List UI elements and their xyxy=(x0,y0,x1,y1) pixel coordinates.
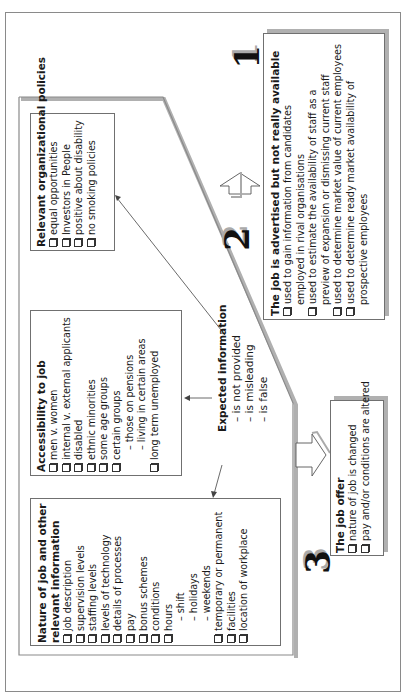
nature-title-1: Nature of job and other xyxy=(36,504,49,643)
expected-title: Expected information xyxy=(216,305,230,433)
nature-item: supervision levels xyxy=(75,504,88,643)
checkbox-icon xyxy=(151,635,159,643)
checkbox-icon xyxy=(361,545,369,553)
stage1-content: The job is advertised but not really ava… xyxy=(269,44,370,316)
checkbox-icon xyxy=(139,635,147,643)
checkbox-icon xyxy=(239,635,247,643)
nature-item: details of processes xyxy=(112,504,125,643)
checkbox-icon xyxy=(346,308,354,316)
expected-info: Expected information – is not provided –… xyxy=(216,305,270,433)
checkbox-icon xyxy=(88,635,96,643)
checkbox-icon xyxy=(76,635,84,643)
access-item: certain groups xyxy=(111,317,124,472)
arrow-to-nature xyxy=(214,465,222,494)
nature-item: pay xyxy=(125,504,138,643)
checkbox-icon xyxy=(308,308,316,316)
checkbox-icon xyxy=(283,308,291,316)
nature-item: job description xyxy=(62,504,75,643)
stage1-item: used to determine ready market availabil… xyxy=(345,44,358,316)
expected-line: – is not provided xyxy=(230,305,244,433)
access-item: some age groups xyxy=(98,317,111,472)
checkbox-icon xyxy=(333,308,341,316)
nature-item: location of workplace xyxy=(238,504,251,643)
block-arrow-up-icon xyxy=(220,172,260,197)
checkbox-icon xyxy=(49,239,57,247)
stage3-content: The job offer nature of job is changed p… xyxy=(334,381,372,553)
policy-item: positive about disability xyxy=(73,57,86,247)
checkbox-icon xyxy=(113,635,121,643)
policy-item: no smoking policies xyxy=(86,57,99,247)
nature-item: staffing levels xyxy=(87,504,100,643)
stage3-item: nature of job is changed xyxy=(347,381,360,553)
checkbox-icon xyxy=(62,239,70,247)
expected-line: – is misleading xyxy=(243,305,257,433)
policies-title: Relevant organizational policies xyxy=(35,57,48,247)
hours-subitem: – shift xyxy=(175,504,188,643)
checkbox-icon xyxy=(63,635,71,643)
nature-item: conditions xyxy=(150,504,163,643)
access-subitem: – those on pensions xyxy=(124,317,137,472)
checkbox-icon xyxy=(62,464,70,472)
checkbox-icon xyxy=(164,635,172,643)
checkbox-icon xyxy=(150,464,158,472)
nature-item: temporary or permanent xyxy=(213,504,226,643)
checkbox-icon xyxy=(348,545,356,553)
policy-item: equal opportunities xyxy=(48,57,61,247)
access-subitem: – living in certain areas xyxy=(136,317,149,472)
checkbox-icon xyxy=(87,464,95,472)
stage1-item-cont: preview of expansion or dismissing curre… xyxy=(320,44,333,316)
checkbox-icon xyxy=(214,635,222,643)
stage3-title: The job offer xyxy=(334,381,347,553)
policy-item: Investors in People xyxy=(61,57,74,247)
access-item: ethnic minorities xyxy=(86,317,99,472)
hours-subitem: – weekends xyxy=(201,504,214,643)
nature-item: levels of technology xyxy=(100,504,113,643)
nature-item: facilities xyxy=(226,504,239,643)
checkbox-icon xyxy=(101,635,109,643)
stage1-title: The job is advertised but not really ava… xyxy=(269,44,282,316)
access-item: long term unemployed xyxy=(149,317,162,472)
nature-title-2: relevant information xyxy=(49,504,62,643)
checkbox-icon xyxy=(126,635,134,643)
checkbox-icon xyxy=(49,464,57,472)
accessibility-content: Accessibility to job men v. women intern… xyxy=(35,317,161,472)
stage1-item: used to estimate the availability of sta… xyxy=(307,44,320,316)
checkbox-icon xyxy=(112,464,120,472)
checkbox-icon xyxy=(74,464,82,472)
stage1-item-cont: employed in rival organisations xyxy=(295,44,308,316)
accessibility-title: Accessibility to job xyxy=(35,317,48,472)
stage1-item: used to gain information from candidates xyxy=(282,44,295,316)
policies-content: Relevant organizational policies equal o… xyxy=(35,57,98,247)
checkbox-icon xyxy=(74,239,82,247)
stage1-item: used to determine market value of curren… xyxy=(332,44,345,316)
expected-line: – is false xyxy=(257,305,271,433)
access-item: disabled xyxy=(73,317,86,472)
checkbox-icon xyxy=(227,635,235,643)
checkbox-icon xyxy=(87,239,95,247)
block-arrow-right-icon xyxy=(296,432,330,476)
stage1-number: 1 xyxy=(230,45,264,69)
nature-item: bonus schemes xyxy=(138,504,151,643)
stage3-number: 3 xyxy=(301,550,335,574)
hours-subitem: – holidays xyxy=(188,504,201,643)
stage2-number: 2 xyxy=(220,227,254,251)
stage3-item: pay and/or conditions are altered xyxy=(360,381,373,553)
access-item: men v. women xyxy=(48,317,61,472)
nature-item: hours xyxy=(163,504,176,643)
nature-content: Nature of job and other relevant informa… xyxy=(36,504,251,643)
access-item: internal v. external applicants xyxy=(61,317,74,472)
checkbox-icon xyxy=(99,464,107,472)
stage1-item-cont: prospective employees xyxy=(358,44,371,316)
